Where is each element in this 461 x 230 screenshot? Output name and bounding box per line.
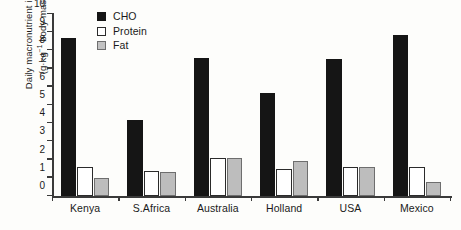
y-axis-tick bbox=[47, 104, 52, 105]
y-axis-tick-label: 5 bbox=[23, 90, 45, 100]
y-axis-tick-label: 9 bbox=[23, 17, 45, 27]
bar-protein-usa bbox=[343, 167, 359, 196]
legend-swatch-protein bbox=[97, 27, 106, 36]
bar-group bbox=[194, 14, 243, 196]
x-axis-tick bbox=[185, 196, 186, 201]
y-axis-tick bbox=[47, 31, 52, 32]
y-axis-tick-label: 8 bbox=[23, 35, 45, 45]
bar-group bbox=[393, 14, 442, 196]
bar-cho-holland bbox=[260, 93, 276, 196]
y-axis-tick-label: 6 bbox=[23, 72, 45, 82]
bar-protein-holland bbox=[276, 169, 292, 196]
legend-label-protein: Protein bbox=[113, 26, 147, 37]
bar-cho-kenya bbox=[61, 38, 77, 196]
bar-protein-kenya bbox=[77, 167, 93, 196]
bar-fat-australia bbox=[227, 158, 243, 196]
legend-item-fat: Fat bbox=[97, 39, 147, 52]
x-axis-tick bbox=[450, 196, 451, 201]
legend-label-fat: Fat bbox=[113, 40, 128, 51]
x-axis-label-holland: Holland bbox=[266, 202, 302, 214]
bar-protein-australia bbox=[210, 158, 226, 196]
bar-fat-holland bbox=[293, 161, 309, 196]
bar-protein-safrica bbox=[144, 171, 160, 196]
bar-group bbox=[260, 14, 309, 196]
x-axis-label-kenya: Kenya bbox=[70, 202, 100, 214]
x-axis-tick bbox=[384, 196, 385, 201]
bar-cho-usa bbox=[326, 59, 342, 196]
x-axis-label-mexico: Mexico bbox=[400, 202, 434, 214]
legend-swatch-fat bbox=[97, 41, 106, 50]
x-axis-tick bbox=[317, 196, 318, 201]
y-axis-title-unit-exponent: −1 bbox=[36, 45, 43, 53]
x-axis-tick bbox=[52, 196, 53, 201]
y-axis-tick-label: 3 bbox=[23, 126, 45, 136]
bar-fat-safrica bbox=[160, 172, 176, 196]
x-axis-label-australia: Australia bbox=[197, 202, 239, 214]
bar-fat-kenya bbox=[94, 178, 110, 196]
y-axis-tick-label: 2 bbox=[23, 145, 45, 155]
y-axis-tick bbox=[47, 158, 52, 159]
y-axis-tick-label: 0 bbox=[23, 181, 45, 191]
x-axis-tick bbox=[118, 196, 119, 201]
x-axis-label-safrica: S.Africa bbox=[133, 202, 171, 214]
legend-item-cho: CHO bbox=[97, 10, 147, 23]
bar-protein-mexico bbox=[409, 167, 425, 196]
y-axis-tick bbox=[47, 67, 52, 68]
x-axis-label-usa: USA bbox=[340, 202, 362, 214]
y-axis-tick-label: 1 bbox=[23, 163, 45, 173]
y-axis-tick bbox=[47, 13, 52, 14]
y-axis-tick-label: 7 bbox=[23, 54, 45, 64]
bar-cho-mexico bbox=[393, 35, 409, 196]
y-axis-tick-label: 4 bbox=[23, 108, 45, 118]
y-axis-tick bbox=[47, 140, 52, 141]
y-axis-tick bbox=[47, 122, 52, 123]
legend: CHOProteinFat bbox=[97, 10, 147, 54]
y-axis-tick bbox=[47, 85, 52, 86]
bar-fat-mexico bbox=[426, 182, 442, 196]
bar-fat-usa bbox=[359, 167, 375, 196]
legend-item-protein: Protein bbox=[97, 25, 147, 38]
bar-chart-figure: Daily macronutrient intake (g·kg−1 body … bbox=[0, 0, 461, 230]
y-axis-tick-label: 10 bbox=[23, 0, 45, 9]
legend-swatch-cho bbox=[97, 12, 106, 21]
bar-cho-australia bbox=[194, 58, 210, 196]
bar-cho-safrica bbox=[127, 120, 143, 196]
y-axis-tick bbox=[47, 176, 52, 177]
bar-group bbox=[326, 14, 375, 196]
y-axis-tick bbox=[47, 49, 52, 50]
x-axis-tick bbox=[251, 196, 252, 201]
legend-label-cho: CHO bbox=[113, 11, 137, 22]
